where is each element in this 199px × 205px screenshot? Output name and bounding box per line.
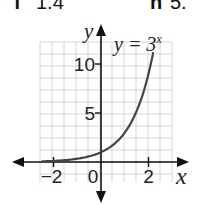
svg-text:5: 5 xyxy=(84,103,95,124)
x-axis-label: x xyxy=(175,163,187,189)
y-axis-up-arrow-icon xyxy=(96,24,106,36)
svg-text:−2: −2 xyxy=(41,166,63,187)
tick-labels: −202510 xyxy=(41,54,154,187)
function-label: y = 3x xyxy=(112,32,162,56)
svg-text:2: 2 xyxy=(143,166,154,187)
curve-y-equals-3-to-x xyxy=(42,52,154,161)
svg-text:10: 10 xyxy=(74,54,95,75)
exponential-graph: −202510 y x y = 3x xyxy=(0,0,199,205)
svg-text:0: 0 xyxy=(88,166,99,187)
x-axis-left-arrow-icon xyxy=(12,157,24,167)
y-axis-down-arrow-icon xyxy=(96,191,106,203)
y-axis-label: y xyxy=(82,19,94,43)
